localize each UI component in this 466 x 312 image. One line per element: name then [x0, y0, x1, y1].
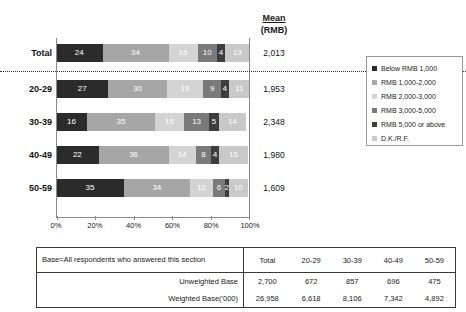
legend-swatch-icon	[372, 66, 377, 71]
chart-row: 20-2927301994111,953	[0, 78, 300, 100]
legend-item-label: RMB 2,000-3,000	[381, 93, 436, 100]
bar-segment: 14	[219, 113, 246, 131]
legend-item-label: RMB 3,000-5,000	[381, 107, 436, 114]
chart-row: 30-39163515135142,348	[0, 111, 300, 133]
bar-segment: 9	[203, 80, 220, 98]
bar-segment: 27	[56, 80, 108, 98]
mean-value: 1,953	[246, 78, 302, 100]
mean-header-unit: (RMB)	[246, 24, 302, 36]
bar-segment: 30	[108, 80, 166, 98]
base-table-column-header: 40-49	[373, 248, 414, 273]
base-table-cell: 4,892	[414, 290, 455, 307]
stacked-bar: 3534126210	[56, 179, 250, 197]
bar-segment: 35	[56, 179, 124, 197]
bar-segment: 6	[213, 179, 225, 197]
base-table-column-header: 30-39	[332, 248, 373, 273]
legend-item[interactable]: RMB 2,000-3,000	[372, 90, 458, 103]
x-axis-tick-label: 80%	[204, 221, 219, 230]
chart-row-label: Total	[0, 42, 52, 64]
stacked-bar-chart: Total243415104132,01320-2927301994111,95…	[0, 36, 300, 222]
bar-segment: 10	[198, 44, 217, 62]
base-table-cell: 857	[332, 273, 373, 291]
legend-swatch-icon	[372, 108, 377, 113]
base-table-column-header: 50-59	[414, 248, 455, 273]
chart-row-label: 40-49	[0, 144, 52, 166]
base-table-cell: 672	[291, 273, 332, 291]
base-table-cell: 7,342	[373, 290, 414, 307]
bar-segment: 24	[56, 44, 103, 62]
stacked-bar: 2236148415	[56, 146, 250, 164]
mean-value: 1,609	[246, 177, 302, 199]
bar-segment: 4	[211, 146, 219, 164]
stacked-bar: 24341510413	[56, 44, 250, 62]
bar-segment: 12	[190, 179, 213, 197]
x-axis-tick-label: 60%	[165, 221, 180, 230]
mean-value: 1,980	[246, 144, 302, 166]
base-table-row-label: Unweighted Base	[37, 273, 244, 291]
legend-item[interactable]: RMB 1,000-2,000	[372, 76, 458, 89]
mean-value: 2,348	[246, 111, 302, 133]
legend-item-label: RMB 1,000-2,000	[381, 79, 436, 86]
legend-swatch-icon	[372, 94, 377, 99]
base-table-column-header: 20-29	[291, 248, 332, 273]
base-table-cell: 2,700	[244, 273, 291, 291]
base-table-cell: 8,106	[332, 290, 373, 307]
legend-item-label: Below RMB 1,000	[381, 65, 437, 72]
legend-item-label: RMB 5,000 or above	[381, 121, 445, 128]
bar-segment: 16	[56, 113, 87, 131]
bar-segment: 13	[184, 113, 209, 131]
base-table-row-label: Weighted Base('000)	[37, 290, 244, 307]
bar-segment: 15	[155, 113, 184, 131]
base-table-cell: 696	[373, 273, 414, 291]
legend-item-label: D.K./R.F.	[381, 135, 409, 142]
chart-row-label: 20-29	[0, 78, 52, 100]
base-table-header-row: Base=All respondents who answered this s…	[37, 248, 455, 273]
legend-item[interactable]: RMB 5,000 or above	[372, 118, 458, 131]
chart-row: Total243415104132,013	[0, 42, 300, 64]
bar-segment: 8	[196, 146, 212, 164]
x-axis-tick-label: 40%	[126, 221, 141, 230]
legend-swatch-icon	[372, 136, 377, 141]
mean-column-header: Mean (RMB)	[246, 12, 302, 36]
chart-legend: Below RMB 1,000RMB 1,000-2,000RMB 2,000-…	[366, 56, 463, 146]
bar-segment: 14	[169, 146, 196, 164]
mean-header-word: Mean	[246, 12, 302, 24]
base-table-column-header: Total	[244, 248, 291, 273]
legend-item[interactable]: Below RMB 1,000	[372, 62, 458, 75]
base-table-grid: Base=All respondents who answered this s…	[37, 248, 455, 307]
base-table-row: Unweighted Base2,700672857696475	[37, 273, 455, 291]
bar-segment: 34	[103, 44, 169, 62]
chart-row-label: 30-39	[0, 111, 52, 133]
x-axis-tick-label: 0%	[51, 221, 62, 230]
x-axis-tick-labels: 0%20%40%60%80%100%	[56, 221, 250, 233]
stacked-bar: 2730199411	[56, 80, 250, 98]
base-table: Base=All respondents who answered this s…	[36, 247, 456, 308]
bar-segment: 19	[167, 80, 204, 98]
bar-segment: 34	[124, 179, 190, 197]
bar-segment: 22	[56, 146, 99, 164]
chart-row: 50-5935341262101,609	[0, 177, 300, 199]
base-table-description: Base=All respondents who answered this s…	[37, 248, 244, 273]
chart-row-label: 50-59	[0, 177, 52, 199]
base-table-cell: 475	[414, 273, 455, 291]
chart-row: 40-4922361484151,980	[0, 144, 300, 166]
base-table-cell: 26,958	[244, 290, 291, 307]
legend-item[interactable]: RMB 3,000-5,000	[372, 104, 458, 117]
bar-segment: 5	[209, 113, 219, 131]
legend-swatch-icon	[372, 122, 377, 127]
bar-segment: 15	[169, 44, 198, 62]
base-table-row: Weighted Base('000)26,9586,6188,1067,342…	[37, 290, 455, 307]
x-axis-tick-label: 20%	[87, 221, 102, 230]
base-table-body: Base=All respondents who answered this s…	[37, 248, 455, 307]
bar-segment: 4	[217, 44, 225, 62]
x-axis-tick-label: 100%	[240, 221, 259, 230]
bar-segment: 4	[221, 80, 229, 98]
bar-segment: 15	[219, 146, 248, 164]
legend-item[interactable]: D.K./R.F.	[372, 132, 458, 145]
mean-value: 2,013	[246, 42, 302, 64]
base-table-cell: 6,618	[291, 290, 332, 307]
bar-segment: 35	[87, 113, 155, 131]
legend-swatch-icon	[372, 80, 377, 85]
stacked-bar: 16351513514	[56, 113, 250, 131]
bar-segment: 36	[99, 146, 169, 164]
